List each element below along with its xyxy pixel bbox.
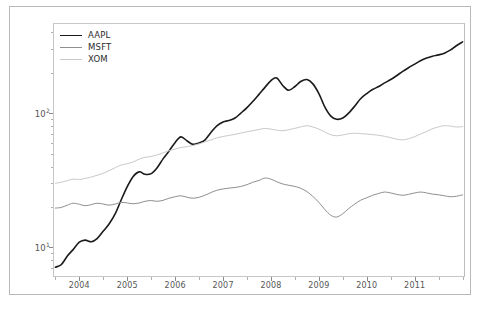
y-tick-minor [51, 154, 54, 155]
y-tick-minor [51, 32, 54, 33]
x-tick-minor [55, 277, 56, 280]
axes: 101102 20042005200620072008200920102011 … [53, 23, 465, 277]
legend: AAPLMSFTXOM [57, 26, 117, 68]
x-tick-label: 2009 [308, 281, 329, 290]
x-tick-minor [295, 277, 296, 280]
legend-item-xom: XOM [60, 53, 111, 65]
x-tick-minor [103, 277, 104, 280]
x-tick-minor [343, 277, 344, 280]
legend-label: XOM [88, 53, 108, 65]
legend-label: MSFT [88, 41, 111, 53]
x-tick-label: 2007 [213, 281, 234, 290]
legend-item-aapl: AAPL [60, 29, 111, 41]
x-tick-minor [247, 277, 248, 280]
y-tick-minor [51, 260, 54, 261]
x-tick-label: 2006 [165, 281, 186, 290]
x-tick-minor [199, 277, 200, 280]
x-tick-minor [439, 277, 440, 280]
y-tick-minor [51, 268, 54, 269]
y-tick-minor [51, 143, 54, 144]
y-tick-label: 101 [35, 241, 50, 253]
x-tick-label: 2008 [260, 281, 281, 290]
y-tick-minor [51, 119, 54, 120]
legend-label: AAPL [88, 29, 111, 41]
x-tick-label: 2011 [404, 281, 425, 290]
figure: 101102 20042005200620072008200920102011 … [0, 0, 480, 311]
y-tick-minor [51, 183, 54, 184]
y-tick-minor [51, 126, 54, 127]
y-tick-minor [51, 49, 54, 50]
y-tick-minor [51, 207, 54, 208]
series-line-xom [55, 126, 462, 184]
x-tick-minor [463, 277, 464, 280]
x-tick-minor [151, 277, 152, 280]
x-tick-label: 2010 [356, 281, 377, 290]
y-tick-label: 102 [35, 107, 50, 119]
y-tick-minor [51, 73, 54, 74]
figure-frame: 101102 20042005200620072008200920102011 … [9, 6, 471, 295]
y-tick-minor [51, 167, 54, 168]
x-tick-label: 2005 [117, 281, 138, 290]
y-tick-minor [51, 134, 54, 135]
x-tick-minor [391, 277, 392, 280]
x-tick-label: 2004 [69, 281, 90, 290]
legend-item-msft: MSFT [60, 41, 111, 53]
y-tick-minor [51, 253, 54, 254]
series-line-aapl [55, 42, 462, 267]
